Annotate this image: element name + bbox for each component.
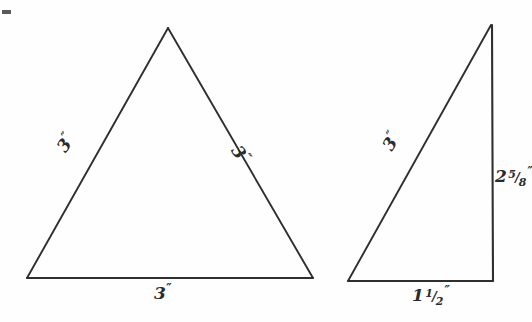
measure-fraction: 5/8 (507, 171, 527, 184)
right-triangle-vertical-edge (492, 25, 493, 281)
inch-mark: ″ (166, 282, 170, 296)
measure-whole-number: 1 (412, 285, 424, 305)
equilateral-base-label: 3″ (154, 283, 171, 302)
right-triangle-vertical-leg-label: 25/8″ (495, 166, 532, 185)
measure-whole-number: 2 (495, 166, 507, 186)
triangles-drawing (0, 0, 532, 322)
right-triangle-base-label: 11/2″ (412, 285, 449, 304)
fraction-numerator: 5 (508, 168, 516, 181)
measure-fraction: 1/2 (424, 290, 444, 303)
fraction-numerator: 1 (425, 287, 433, 300)
fraction-denominator: 8 (519, 176, 527, 189)
worksheet-page: 3″ 3″ 3″ 3″ 25/8″ 11/2″ (0, 0, 532, 322)
inch-mark: ″ (527, 165, 531, 179)
measure-value: 3 (154, 283, 166, 303)
equilateral-left-edge (27, 28, 168, 278)
fraction-denominator: 2 (436, 295, 444, 308)
right-triangle-shape (348, 25, 493, 281)
right-triangle-hypotenuse-edge (348, 25, 491, 281)
inch-mark: ″ (444, 284, 448, 298)
